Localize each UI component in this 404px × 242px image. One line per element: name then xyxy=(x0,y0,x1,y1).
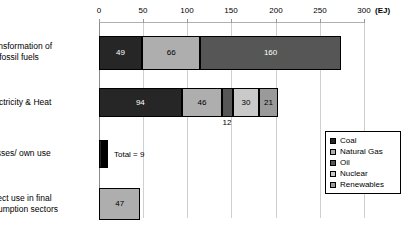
legend-label-coal: Coal xyxy=(340,136,356,146)
x-tick-100: 100 xyxy=(180,6,193,16)
row-label-line2: fossil fuels xyxy=(0,52,94,63)
chart-legend: Coal Natural Gas Oil Nuclear Renewables xyxy=(325,131,401,194)
stacked-bar-chart: 0 50 100 150 200 250 300 (EJ) Transforma… xyxy=(0,0,404,242)
tickmark-300 xyxy=(364,19,365,23)
legend-swatch-oil-icon xyxy=(330,160,336,166)
row-label-line1: Losses/ own use xyxy=(0,148,94,159)
bar-segment-nuclear[interactable]: 30 xyxy=(233,88,259,117)
x-tick-50: 50 xyxy=(139,6,148,16)
tickmark-250 xyxy=(320,19,321,23)
legend-item-oil[interactable]: Oil xyxy=(330,157,397,168)
legend-item-renewables[interactable]: Renewables xyxy=(330,179,397,190)
bar-track-electricity-heat: 94 46 30 21 xyxy=(99,88,364,117)
legend-swatch-renewables-icon xyxy=(330,182,336,188)
row-label-direct-use: Direct use in final consumption sectors xyxy=(0,193,94,215)
tickmark-150 xyxy=(231,19,232,23)
legend-swatch-natural-gas-icon xyxy=(330,149,336,155)
tickmark-50 xyxy=(143,19,144,23)
bar-segment-oil[interactable]: 160 xyxy=(200,36,341,70)
bar-segment-natural-gas[interactable]: 46 xyxy=(182,88,223,117)
bar-row-transformation: Transformation of fossil fuels 49 66 160 xyxy=(0,36,404,70)
bar-segment-renewables[interactable] xyxy=(106,140,108,168)
legend-label-nuclear: Nuclear xyxy=(340,169,368,179)
bar-segment-natural-gas[interactable]: 66 xyxy=(142,36,200,70)
x-axis-line xyxy=(99,22,365,23)
legend-swatch-coal-icon xyxy=(330,138,336,144)
bar-track-transformation: 49 66 160 xyxy=(99,36,364,70)
bar-row-electricity-heat: Electricity & Heat 94 46 30 21 12 xyxy=(0,88,404,117)
tickmark-0 xyxy=(99,19,100,23)
bar-segment-coal[interactable]: 49 xyxy=(99,36,142,70)
legend-item-natural-gas[interactable]: Natural Gas xyxy=(330,146,397,157)
x-tick-200: 200 xyxy=(269,6,282,16)
bar-segment-coal[interactable]: 94 xyxy=(99,88,182,117)
tickmark-100 xyxy=(187,19,188,23)
bar-segment-natural-gas[interactable]: 47 xyxy=(99,188,140,220)
x-tick-250: 250 xyxy=(313,6,326,16)
tickmark-200 xyxy=(276,19,277,23)
row-label-line1: Direct use in final xyxy=(0,193,94,204)
bar-segment-renewables[interactable]: 21 xyxy=(259,88,278,117)
bar-segment-oil[interactable] xyxy=(222,88,233,117)
x-axis-unit-label: (EJ) xyxy=(375,6,390,16)
losses-total-annotation: Total = 9 xyxy=(114,150,144,160)
row-label-line1: Transformation of xyxy=(0,41,94,52)
row-label-transformation: Transformation of fossil fuels xyxy=(0,41,94,63)
legend-label-oil: Oil xyxy=(340,158,350,168)
x-tick-150: 150 xyxy=(224,6,237,16)
x-tick-300: 300 xyxy=(357,6,370,16)
row-label-electricity-heat: Electricity & Heat xyxy=(0,97,94,108)
row-label-line2: consumption sectors xyxy=(0,204,94,215)
row-label-line1: Electricity & Heat xyxy=(0,97,94,108)
legend-label-renewables: Renewables xyxy=(340,180,384,190)
legend-item-coal[interactable]: Coal xyxy=(330,135,397,146)
bar-segment-oil-outside-label: 12 xyxy=(223,118,232,128)
row-label-losses: Losses/ own use xyxy=(0,148,94,159)
x-tick-0: 0 xyxy=(97,6,101,16)
legend-swatch-nuclear-icon xyxy=(330,171,336,177)
legend-label-natural-gas: Natural Gas xyxy=(340,147,383,157)
legend-item-nuclear[interactable]: Nuclear xyxy=(330,168,397,179)
